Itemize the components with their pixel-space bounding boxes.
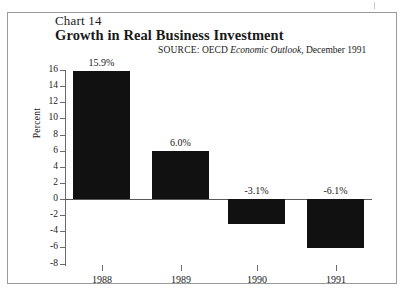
x-axis-tick-label: 1991 [306,275,366,285]
y-axis-line [65,70,66,266]
x-axis-tick-label: 1989 [151,275,211,285]
y-axis-tick-label: -8 [18,259,58,269]
y-axis-tick [60,215,65,216]
y-axis-tick-label: 0 [18,194,58,204]
bar [152,151,209,199]
y-axis-tick [60,102,65,103]
y-axis-tick-label: 10 [18,113,58,123]
x-axis-tick [257,265,258,271]
bar-value-label: -6.1% [297,186,374,196]
y-axis-tick [60,264,65,265]
y-axis-tick [60,70,65,71]
y-axis-tick [60,151,65,152]
x-axis-tick [181,265,182,271]
y-axis-tick-label: 14 [18,81,58,91]
x-axis-tick [336,265,337,271]
y-axis-tick-label: -4 [18,226,58,236]
y-axis-tick [60,167,65,168]
y-axis-tick [60,199,65,200]
x-axis-tick-label: 1988 [72,275,132,285]
y-axis-tick-label: 6 [18,146,58,156]
bar [73,71,130,199]
y-axis-tick-label: 2 [18,178,58,188]
y-axis-tick-label: -6 [18,242,58,252]
bar-value-label: -3.1% [218,186,295,196]
y-axis-tick [60,183,65,184]
x-axis-tick-label: 1990 [227,275,287,285]
bar-chart-plot: Percent 1614121086420-2-4-6-8 15.9%6.0%-… [0,0,410,298]
bar [307,199,364,248]
y-axis-tick-label: 4 [18,162,58,172]
y-axis-tick-label: 16 [18,65,58,75]
y-axis-tick [60,118,65,119]
bar-value-label: 15.9% [63,58,140,68]
y-axis-tick-label: -2 [18,210,58,220]
y-axis-tick [60,86,65,87]
y-axis-tick-label: 8 [18,130,58,140]
y-axis-tick [60,231,65,232]
bar-value-label: 6.0% [142,138,219,148]
y-axis-tick [60,135,65,136]
x-axis-tick [102,265,103,271]
y-axis-tick-label: 12 [18,97,58,107]
bar [228,199,285,224]
y-axis-tick [60,247,65,248]
